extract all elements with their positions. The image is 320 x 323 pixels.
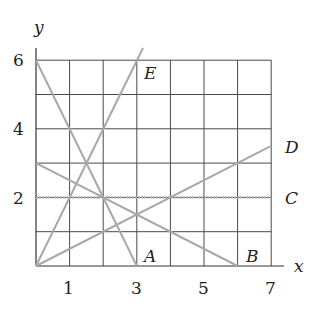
label-e: E	[143, 63, 157, 83]
label-c: C	[285, 188, 298, 208]
y-axis-label: y	[33, 17, 44, 37]
label-a: A	[142, 246, 156, 266]
y-tick-2: 2	[13, 188, 24, 208]
line-e	[36, 48, 143, 266]
axis-labels: y x	[33, 17, 304, 276]
y-tick-6: 6	[13, 50, 24, 70]
x-axis-label: x	[294, 256, 304, 276]
x-tick-1: 1	[63, 278, 74, 298]
line-labels: A B C D E	[142, 63, 299, 266]
axes	[36, 48, 284, 266]
label-d: D	[284, 137, 299, 157]
label-b: B	[245, 246, 259, 266]
x-tick-3: 3	[131, 278, 142, 298]
x-tick-5: 5	[198, 278, 209, 298]
coordinate-diagram: 1 3 5 7 2 4 6 y x A B C D E	[0, 0, 320, 323]
y-tick-4: 4	[13, 119, 24, 139]
x-tick-7: 7	[265, 278, 276, 298]
